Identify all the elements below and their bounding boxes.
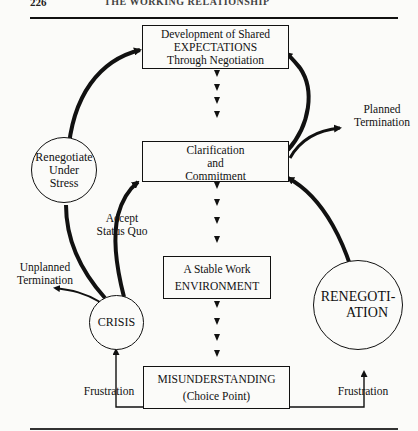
node-stable-line-1: A Stable Work	[164, 263, 270, 276]
node-expectations-line-3: Through Negotiation	[143, 54, 288, 67]
node-renegotiate-line-3: Stress	[35, 177, 92, 190]
arrow-unplanned-termination	[55, 288, 100, 302]
node-renegotiate-line-1: Renegotiate	[35, 151, 92, 164]
node-clarification-line-2: and	[143, 157, 288, 170]
node-stable-line-2: ENVIRONMENT	[164, 280, 270, 293]
label-planned-termination-line-1: Planned	[346, 103, 418, 116]
footer-rule	[30, 428, 398, 430]
arrow-crisis-to-clarification	[115, 182, 138, 297]
node-expectations-line-1: Development of Shared	[143, 28, 288, 41]
node-misunderstanding-line-1: MISUNDERSTANDING	[144, 373, 289, 386]
node-crisis-label: CRISIS	[98, 316, 135, 329]
node-renegotiate-line-2: Under	[35, 164, 92, 177]
label-unplanned-termination-line-1: Unplanned	[10, 261, 80, 274]
chevron-chain-stable-misunderstanding	[214, 301, 220, 357]
node-clarification-line-3: Commitment	[143, 170, 288, 183]
label-planned-termination: Planned Termination	[346, 103, 418, 129]
node-expectations: Development of Shared EXPECTATIONS Throu…	[142, 25, 289, 69]
node-misunderstanding: MISUNDERSTANDING (Choice Point)	[143, 366, 290, 409]
label-frustration-left-text: Frustration	[78, 385, 140, 398]
label-accept-status-quo: Accept Status Quo	[90, 212, 154, 238]
node-clarification-line-1: Clarification	[143, 144, 288, 157]
label-unplanned-termination: Unplanned Termination	[10, 261, 80, 287]
node-renegotiation-line-2: ATION	[321, 305, 396, 321]
node-renegotiate-under-stress: Renegotiate Under Stress	[31, 137, 97, 203]
label-frustration-right: Frustration	[327, 385, 399, 398]
arrow-planned-termination	[290, 128, 340, 158]
node-stable-environment: A Stable Work ENVIRONMENT	[163, 256, 271, 299]
node-clarification: Clarification and Commitment	[142, 141, 289, 182]
label-frustration-right-text: Frustration	[327, 385, 399, 398]
label-frustration-left: Frustration	[78, 385, 140, 398]
node-renegotiation-line-1: RENEGOTI-	[321, 289, 396, 305]
node-misunderstanding-line-2: (Choice Point)	[144, 390, 289, 403]
label-accept-status-quo-line-2: Status Quo	[90, 225, 154, 238]
node-renegotiation: RENEGOTI- ATION	[313, 260, 403, 350]
label-planned-termination-line-2: Termination	[346, 116, 418, 129]
label-unplanned-termination-line-2: Termination	[10, 274, 80, 287]
chevron-chain-expectations-clarification	[214, 70, 220, 118]
chevron-chain-clarification-stable	[214, 182, 220, 243]
node-expectations-line-2: EXPECTATIONS	[143, 41, 288, 54]
label-accept-status-quo-line-1: Accept	[90, 212, 154, 225]
arrow-clarification-to-expectations	[286, 53, 309, 150]
arrow-renegotiate-to-expectations	[68, 50, 140, 155]
node-crisis: CRISIS	[89, 295, 144, 350]
